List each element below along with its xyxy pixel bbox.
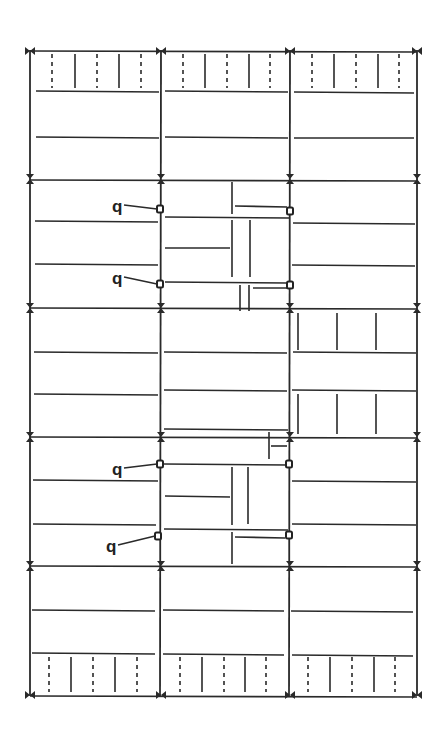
framing-plan: qqqq [0, 0, 445, 744]
pin-connection-icon [287, 282, 293, 289]
leader-line [124, 277, 157, 284]
column-connection-icon [413, 432, 421, 442]
pin-connection-icon [286, 532, 292, 539]
top-bay-beams [36, 54, 414, 138]
leader-line [124, 464, 157, 468]
pin-connection-icon [157, 461, 163, 468]
girder-lines [30, 51, 417, 697]
leader-line [118, 536, 155, 545]
q-label: q [112, 197, 122, 216]
q-label: q [112, 460, 122, 479]
bay-row-3-beams [34, 313, 416, 434]
pin-connection-icon [157, 281, 163, 288]
pin-connection-icon [286, 461, 292, 468]
column-connection-icon [26, 174, 34, 184]
pin-connection-icon [157, 206, 163, 213]
column-lines [30, 50, 417, 696]
column-connection-icon [413, 561, 421, 571]
column-connection-icon [157, 174, 165, 184]
pin-connection-icon [287, 208, 293, 215]
bay-row-4-beams [33, 429, 416, 564]
column-connection-icon [156, 691, 166, 699]
column-connection-icon [285, 691, 295, 699]
pin-connection-icon [155, 533, 161, 540]
q-labels: qqqq [106, 197, 157, 556]
column-connection-icon [413, 303, 421, 313]
q-label: q [112, 269, 122, 288]
bay-row-2-beams [35, 182, 415, 311]
q-label: q [106, 537, 116, 556]
leader-line [124, 205, 157, 209]
column-connection-symbols [25, 47, 422, 699]
bottom-bay-beams [32, 610, 413, 692]
column-connection-icon [413, 174, 421, 184]
pin-connections [155, 206, 293, 540]
column-connection-icon [286, 174, 294, 184]
